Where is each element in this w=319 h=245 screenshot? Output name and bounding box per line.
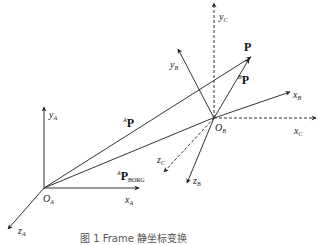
axis-z-b (187, 118, 214, 183)
label-z-b: zB (193, 176, 201, 187)
label-z-a: zA (18, 226, 26, 237)
label-y-a: yA (49, 110, 57, 121)
vector-b-p (214, 59, 249, 118)
label-x-a: xA (125, 195, 133, 206)
label-x-c: xC (294, 126, 302, 137)
label-origin-b: OB (215, 123, 226, 134)
axis-z-a (8, 188, 44, 229)
axis-x-b (214, 92, 290, 118)
label-z-c: zC (157, 155, 165, 166)
label-vector-a-p-borg: APBORG (117, 170, 145, 183)
label-vector-b-p: BP (238, 74, 249, 86)
label-vector-a-p: AP (123, 117, 134, 129)
label-origin-a: OA (43, 194, 54, 205)
label-y-b: yB (170, 60, 178, 71)
label-x-b: xB (293, 90, 301, 101)
label-y-c: yC (219, 12, 227, 23)
axis-z-c (164, 118, 214, 172)
figure-caption: 图 1 Frame 静坐标变换 (80, 230, 187, 245)
label-point-p: P (244, 41, 251, 53)
